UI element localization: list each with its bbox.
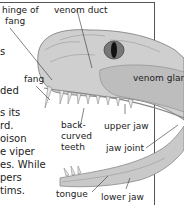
body-text-line: ded [0,84,19,97]
label-jaw-joint: jaw joint [106,143,144,153]
body-text-line: es. While [0,158,46,171]
body-text-line: s [0,45,5,58]
body-text-line: rd. [0,119,13,132]
label-back-curved-teeth-2: curved [61,131,92,141]
body-text-line: oison [0,132,27,145]
label-hinge-of-fang-2: fang [5,16,25,26]
label-hinge-of-fang: hinge of [2,5,39,15]
label-back-curved-teeth-3: teeth [61,142,85,152]
label-lower-jaw: lower jaw [101,192,144,202]
viper-head-illustration [0,0,184,205]
body-text-line: e viper [0,145,35,158]
label-venom-duct: venom duct [54,5,108,15]
body-text-line: s its [0,106,20,119]
label-fang: fang [24,74,44,84]
label-upper-jaw: upper jaw [104,121,149,131]
label-back-curved-teeth: back- [61,120,86,130]
body-text-line: tims. [0,184,25,197]
label-venom-gland: venom gland [133,73,184,83]
label-tongue: tongue [56,189,88,199]
body-text-line: pers [0,171,22,184]
